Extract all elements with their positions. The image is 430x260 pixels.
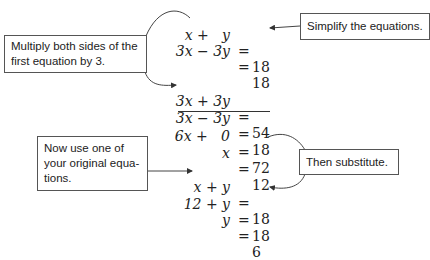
callout-original-line3: tions. bbox=[44, 171, 141, 186]
equation-1-rhs: 18 bbox=[252, 59, 270, 75]
equation-6: x = 12 bbox=[150, 129, 280, 145]
callout-multiply: Multiply both sides of the first equatio… bbox=[4, 35, 147, 73]
callout-multiply-line2: first equation by 3. bbox=[11, 54, 140, 69]
equation-2: 3x − 3y = 18 bbox=[150, 27, 280, 43]
equation-8: 12 + y = 18 bbox=[150, 180, 280, 196]
equation-8-equals: = bbox=[238, 212, 250, 228]
equation-9-rhs: 6 bbox=[252, 244, 261, 260]
equation-7: x + y = 18 bbox=[150, 163, 280, 179]
equation-9: y = 6 bbox=[150, 196, 280, 212]
callout-simplify: Simplify the equations. bbox=[300, 13, 430, 40]
equation-8-rhs: 18 bbox=[252, 228, 270, 244]
equation-3: 3x + 3y = 54 bbox=[150, 77, 280, 93]
callout-substitute: Then substitute. bbox=[299, 149, 399, 175]
callout-original-line2: your original equa- bbox=[44, 156, 141, 171]
equation-5-equals: = bbox=[238, 144, 250, 160]
callout-multiply-line1: Multiply both sides of the bbox=[11, 39, 140, 54]
equation-2-equals: = bbox=[238, 59, 250, 75]
equation-9-lhs: y bbox=[222, 212, 230, 228]
equation-1-equals: = bbox=[238, 43, 250, 59]
callout-substitute-text: Then substitute. bbox=[306, 156, 388, 168]
equation-1: x + y = 18 bbox=[150, 11, 280, 27]
equation-7-rhs: 18 bbox=[252, 211, 270, 227]
callout-original-line1: Now use one of bbox=[44, 141, 141, 156]
equation-4: 3x − 3y = 18 bbox=[150, 94, 280, 110]
equation-6-lhs: x bbox=[222, 145, 230, 161]
callout-original: Now use one of your original equa- tions… bbox=[37, 136, 148, 191]
equation-5: 6x + 0 = 72 bbox=[150, 112, 280, 128]
callout-simplify-text: Simplify the equations. bbox=[307, 20, 423, 32]
equation-2-lhs: 3x − 3y bbox=[176, 43, 230, 59]
equation-9-equals: = bbox=[238, 228, 250, 244]
